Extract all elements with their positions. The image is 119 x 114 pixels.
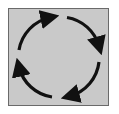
arrow-bottom-left-icon xyxy=(19,67,52,97)
cycle-arrows xyxy=(0,0,119,114)
arrow-top-left-icon xyxy=(19,18,50,51)
arrow-bottom-right-icon xyxy=(70,62,99,96)
arrow-top-right-icon xyxy=(67,18,99,47)
